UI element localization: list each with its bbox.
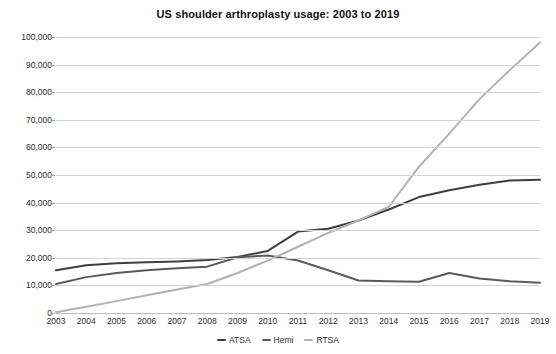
legend-label: ATSA <box>229 336 251 345</box>
plot-area <box>56 37 540 313</box>
x-axis-tick-label: 2012 <box>319 316 338 326</box>
chart-title: US shoulder arthroplasty usage: 2003 to … <box>0 8 556 20</box>
y-axis-tick-label: 30,000 <box>2 225 52 235</box>
legend-item-atsa[interactable]: ATSA <box>217 336 251 345</box>
y-axis-tick <box>51 230 55 231</box>
gridline <box>56 230 540 231</box>
x-axis-tick-label: 2016 <box>440 316 459 326</box>
y-axis-tick-label: 100,000 <box>2 32 52 42</box>
x-axis-tick-label: 2017 <box>470 316 489 326</box>
legend-item-rtsa[interactable]: RTSA <box>304 336 339 345</box>
y-axis-tick <box>51 120 55 121</box>
y-axis-tick <box>51 258 55 259</box>
y-axis-tick <box>51 203 55 204</box>
gridline <box>56 175 540 176</box>
y-axis-tick-label: 0 <box>2 308 52 318</box>
y-axis-tick <box>51 92 55 93</box>
y-axis-tick <box>51 285 55 286</box>
y-axis-tick <box>51 147 55 148</box>
x-axis-tick-label: 2005 <box>107 316 126 326</box>
x-axis: 2003200420052006200720082009201020112012… <box>56 316 540 330</box>
gridline <box>56 313 540 314</box>
legend-swatch-icon <box>304 339 313 341</box>
legend-item-hemi[interactable]: Hemi <box>262 336 294 345</box>
x-axis-tick-label: 2006 <box>137 316 156 326</box>
legend-swatch-icon <box>217 339 226 341</box>
gridline <box>56 65 540 66</box>
chart-legend: ATSAHemiRTSA <box>0 336 556 345</box>
y-axis-tick-label: 10,000 <box>2 280 52 290</box>
x-axis-tick-label: 2007 <box>168 316 187 326</box>
y-axis-tick <box>51 175 55 176</box>
y-axis-tick <box>51 65 55 66</box>
x-axis-tick-label: 2009 <box>228 316 247 326</box>
gridline <box>56 147 540 148</box>
x-axis-tick-label: 2008 <box>198 316 217 326</box>
x-axis-tick-label: 2019 <box>531 316 550 326</box>
y-axis-tick-label: 40,000 <box>2 198 52 208</box>
gridline <box>56 258 540 259</box>
y-axis-tick-label: 90,000 <box>2 60 52 70</box>
x-axis-tick-label: 2003 <box>47 316 66 326</box>
y-axis: 010,00020,00030,00040,00050,00060,00070,… <box>0 0 52 354</box>
chart-container: US shoulder arthroplasty usage: 2003 to … <box>0 0 556 354</box>
gridline <box>56 120 540 121</box>
y-axis-tick-label: 60,000 <box>2 142 52 152</box>
gridline <box>56 92 540 93</box>
y-axis-tick <box>51 37 55 38</box>
gridline <box>56 37 540 38</box>
x-axis-tick-label: 2010 <box>258 316 277 326</box>
legend-label: RTSA <box>316 336 339 345</box>
series-line-atsa <box>56 180 540 271</box>
x-axis-tick-label: 2015 <box>410 316 429 326</box>
y-axis-tick-label: 20,000 <box>2 253 52 263</box>
x-axis-tick-label: 2014 <box>379 316 398 326</box>
legend-swatch-icon <box>262 339 271 341</box>
y-axis-tick-label: 70,000 <box>2 115 52 125</box>
x-axis-tick-label: 2004 <box>77 316 96 326</box>
gridline <box>56 285 540 286</box>
x-axis-tick-label: 2013 <box>349 316 368 326</box>
x-axis-tick-label: 2018 <box>500 316 519 326</box>
series-line-hemi <box>56 256 540 284</box>
gridline <box>56 203 540 204</box>
y-axis-tick <box>51 313 55 314</box>
legend-label: Hemi <box>274 336 294 345</box>
x-axis-tick-label: 2011 <box>289 316 307 326</box>
y-axis-tick-label: 50,000 <box>2 170 52 180</box>
y-axis-tick-label: 80,000 <box>2 87 52 97</box>
